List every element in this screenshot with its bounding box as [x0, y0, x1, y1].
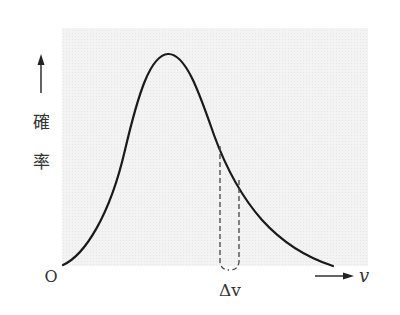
right-arrow-icon — [315, 273, 354, 280]
plot-background — [62, 28, 368, 266]
x-variable-label: v — [359, 265, 369, 286]
up-arrow-icon — [38, 54, 45, 93]
interval-label: Δv — [219, 280, 241, 300]
probability-diagram: 確 率 O v Δv — [0, 0, 400, 315]
interval-label-text: Δv — [219, 280, 241, 300]
y-label-char-2: 率 — [33, 152, 50, 172]
y-label-char-1: 確 — [33, 112, 50, 132]
origin-label: O — [44, 267, 57, 286]
